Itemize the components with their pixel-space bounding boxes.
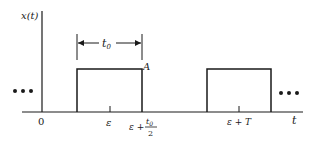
pulse-train-diagram: t0 x(t) t A 0 ε ε + t0 2 ε + T bbox=[0, 0, 309, 142]
y-axis-label: x(t) bbox=[21, 10, 39, 21]
ellipsis-left bbox=[13, 89, 33, 93]
tick-label-zero: 0 bbox=[38, 116, 44, 127]
x-axis-label: t bbox=[292, 114, 297, 127]
tick-label-epsilon-plus-t0-over-2: ε + t0 2 bbox=[129, 117, 157, 138]
tick-label-epsilon: ε bbox=[106, 117, 111, 128]
pulse-2 bbox=[207, 69, 271, 112]
svg-text:2: 2 bbox=[148, 129, 153, 138]
width-label: t0 bbox=[102, 37, 111, 51]
svg-text:t0: t0 bbox=[146, 117, 153, 127]
amplitude-label: A bbox=[142, 61, 150, 72]
ellipsis-right bbox=[279, 91, 299, 95]
pulse-1 bbox=[77, 69, 142, 112]
svg-text:ε +: ε + bbox=[129, 122, 144, 132]
tick-label-epsilon-plus-T: ε + T bbox=[227, 117, 252, 127]
